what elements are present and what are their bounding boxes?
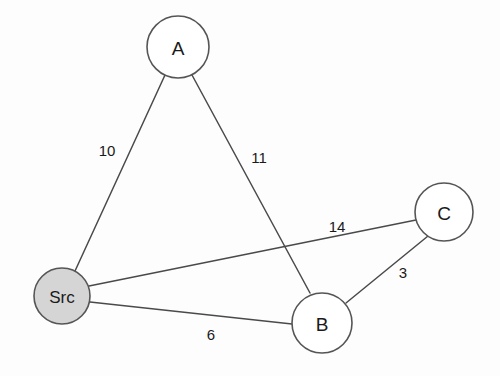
graph-node-c[interactable]: C — [415, 183, 473, 241]
graph-node-a[interactable]: A — [147, 16, 209, 78]
node-label-a: A — [172, 38, 185, 59]
edges-layer — [75, 75, 428, 324]
graph-edge-src-b — [90, 302, 292, 324]
node-label-b: B — [316, 314, 329, 335]
edge-weight-a-b: 11 — [251, 149, 267, 166]
edge-weights-layer: 10111463 — [99, 142, 408, 343]
graph-node-b[interactable]: B — [292, 293, 352, 353]
node-label-src: Src — [49, 288, 75, 307]
node-label-c: C — [437, 203, 451, 224]
graph-node-src[interactable]: Src — [34, 268, 90, 324]
edge-weight-src-c: 14 — [329, 218, 346, 235]
graph-svg: ASrcBC 10111463 — [0, 0, 500, 376]
edge-weight-b-c: 3 — [399, 264, 407, 281]
graph-edge-src-a — [75, 75, 165, 271]
graph-edge-a-b — [192, 75, 310, 293]
graph-edge-b-c — [346, 236, 428, 303]
graph-edge-src-c — [89, 220, 416, 286]
edge-weight-src-a: 10 — [99, 142, 116, 159]
graph-diagram-canvas: ASrcBC 10111463 — [0, 0, 500, 376]
edge-weight-src-b: 6 — [207, 326, 215, 343]
